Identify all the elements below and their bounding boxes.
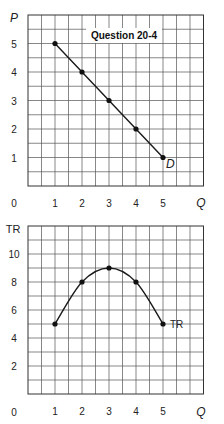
y-tick-label: 4 bbox=[11, 67, 17, 78]
y-tick-label: 10 bbox=[8, 249, 20, 260]
x-tick-label: 5 bbox=[160, 198, 166, 209]
y-axis-ticks: 12345 bbox=[11, 39, 17, 164]
x-tick-label: 4 bbox=[133, 198, 139, 209]
data-point bbox=[160, 155, 165, 160]
data-point bbox=[133, 279, 138, 284]
x-axis-ticks: 12345 bbox=[52, 198, 166, 209]
y-tick-label: 2 bbox=[11, 361, 17, 372]
total-revenue-chart: TR Q 0 246810 12345 TR bbox=[0, 212, 224, 424]
y-axis-label-price: P bbox=[10, 11, 18, 25]
tr-curve-label: TR bbox=[170, 319, 183, 330]
x-axis-label-quantity: Q bbox=[196, 405, 205, 419]
data-point bbox=[106, 98, 111, 103]
data-point bbox=[52, 321, 57, 326]
y-tick-label: 2 bbox=[11, 124, 17, 135]
x-tick-label: 5 bbox=[160, 406, 166, 417]
y-tick-label: 8 bbox=[11, 277, 17, 288]
data-point bbox=[160, 321, 165, 326]
data-point bbox=[106, 265, 111, 270]
y-tick-label: 4 bbox=[11, 333, 17, 344]
data-point bbox=[79, 69, 84, 74]
y-tick-label: 1 bbox=[11, 153, 17, 164]
x-axis-ticks: 12345 bbox=[52, 406, 166, 417]
x-tick-label: 2 bbox=[79, 198, 85, 209]
y-axis-ticks: 246810 bbox=[8, 249, 20, 372]
tr-grid bbox=[28, 226, 204, 394]
x-tick-label: 3 bbox=[106, 198, 112, 209]
chart-title: Question 20-4 bbox=[91, 30, 158, 41]
y-tick-label: 5 bbox=[11, 39, 17, 50]
x-tick-label: 4 bbox=[133, 406, 139, 417]
data-point bbox=[79, 279, 84, 284]
origin-label: 0 bbox=[11, 407, 17, 418]
y-tick-label: 6 bbox=[11, 305, 17, 316]
x-tick-label: 1 bbox=[52, 198, 58, 209]
demand-chart: Question 20-4 P Q 0 12345 12345 D bbox=[0, 0, 224, 212]
x-tick-label: 1 bbox=[52, 406, 58, 417]
data-point bbox=[52, 41, 57, 46]
y-tick-label: 3 bbox=[11, 96, 17, 107]
origin-label: 0 bbox=[11, 198, 17, 209]
x-axis-label-quantity: Q bbox=[196, 196, 205, 210]
x-tick-label: 2 bbox=[79, 406, 85, 417]
demand-curve-label: D bbox=[166, 157, 175, 171]
data-point bbox=[133, 126, 138, 131]
x-tick-label: 3 bbox=[106, 406, 112, 417]
y-axis-label-tr: TR bbox=[6, 223, 21, 235]
